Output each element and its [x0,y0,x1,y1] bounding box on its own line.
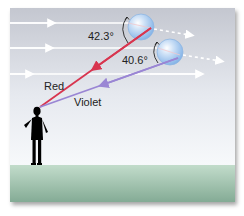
violet-label: Violet [74,96,101,108]
violet-angle-label: 40.6° [122,54,148,66]
ground [10,165,235,202]
diagram-frame: 42.3° 40.6° Red Violet [10,8,235,202]
red-label: Red [44,80,64,92]
red-angle-label: 42.3° [88,30,114,42]
rainbow-diagram [10,8,235,202]
